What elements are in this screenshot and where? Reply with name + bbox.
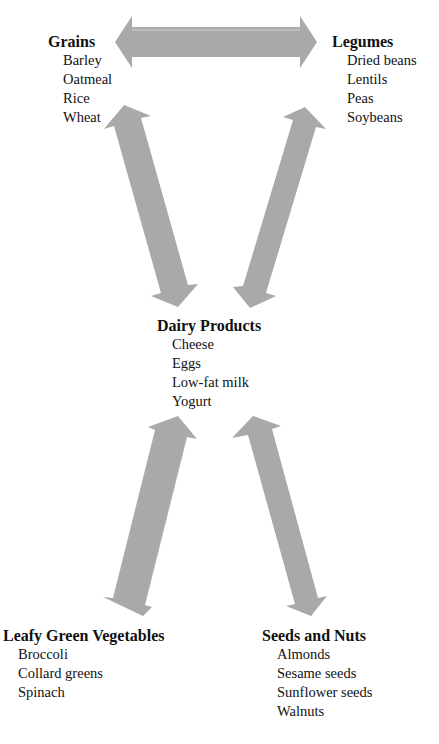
group-legumes: Legumes Dried beans Lentils Peas Soybean…	[332, 32, 417, 127]
list-item: Sesame seeds	[277, 664, 372, 683]
list-item: Dried beans	[347, 51, 417, 70]
list-item: Wheat	[63, 108, 112, 127]
group-title: Legumes	[332, 32, 417, 51]
double-arrow-grains-legumes	[115, 16, 317, 68]
list-item: Rice	[63, 89, 112, 108]
list-item: Eggs	[172, 354, 261, 373]
list-item: Yogurt	[172, 392, 261, 411]
double-arrow-grains-dairy	[104, 105, 198, 307]
double-arrow-legumes-dairy	[233, 107, 326, 308]
list-item: Lentils	[347, 70, 417, 89]
list-item: Sunflower seeds	[277, 683, 372, 702]
group-seeds-and-nuts: Seeds and Nuts Almonds Sesame seeds Sunf…	[262, 626, 372, 721]
group-title: Leafy Green Vegetables	[3, 626, 164, 645]
group-dairy-products: Dairy Products Cheese Eggs Low-fat milk …	[157, 316, 261, 411]
list-item: Cheese	[172, 335, 261, 354]
list-item: Almonds	[277, 645, 372, 664]
item-list: Almonds Sesame seeds Sunflower seeds Wal…	[262, 645, 372, 721]
group-leafy-green-vegetables: Leafy Green Vegetables Broccoli Collard …	[3, 626, 164, 702]
item-list: Dried beans Lentils Peas Soybeans	[332, 51, 417, 127]
double-arrow-dairy-leafy	[103, 416, 197, 616]
list-item: Soybeans	[347, 108, 417, 127]
list-item: Barley	[63, 51, 112, 70]
group-title: Grains	[48, 32, 112, 51]
group-title: Seeds and Nuts	[262, 626, 372, 645]
list-item: Low-fat milk	[172, 373, 261, 392]
item-list: Barley Oatmeal Rice Wheat	[48, 51, 112, 127]
list-item: Collard greens	[18, 664, 164, 683]
double-arrow-dairy-seeds	[232, 416, 327, 616]
list-item: Oatmeal	[63, 70, 112, 89]
list-item: Spinach	[18, 683, 164, 702]
group-title: Dairy Products	[157, 316, 261, 335]
list-item: Walnuts	[277, 702, 372, 721]
group-grains: Grains Barley Oatmeal Rice Wheat	[48, 32, 112, 127]
item-list: Cheese Eggs Low-fat milk Yogurt	[157, 335, 261, 411]
list-item: Peas	[347, 89, 417, 108]
item-list: Broccoli Collard greens Spinach	[3, 645, 164, 702]
list-item: Broccoli	[18, 645, 164, 664]
